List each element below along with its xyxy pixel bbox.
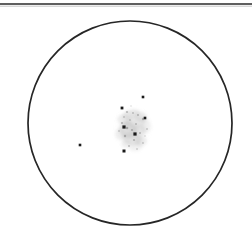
cluster-speckle-10 [124, 135, 126, 137]
data-point-p2 [121, 107, 124, 110]
cluster-blob-10 [115, 128, 125, 140]
cluster-speckle-13 [128, 145, 130, 147]
cluster-speckle-7 [126, 127, 129, 130]
cluster-speckle-19 [144, 135, 146, 137]
figure-panel [0, 0, 252, 243]
data-point-p1 [142, 96, 145, 99]
cluster-speckle-12 [142, 142, 144, 144]
cluster-speckle-4 [129, 119, 131, 121]
cluster-speckle-8 [131, 129, 133, 131]
data-point-p4 [122, 125, 125, 128]
cluster-speckle-15 [118, 130, 120, 132]
cluster-speckle-6 [135, 123, 137, 125]
cluster-speckle-2 [137, 114, 139, 116]
cluster-speckle-0 [126, 111, 128, 113]
cluster-speckle-5 [121, 122, 123, 124]
cluster-speckle-14 [136, 148, 138, 150]
cluster-speckle-18 [123, 116, 125, 118]
cluster-speckle-17 [130, 105, 132, 107]
data-point-p5 [133, 132, 136, 135]
scatter-plot-canvas [0, 0, 252, 243]
data-point-p7 [79, 144, 82, 147]
data-point-p6 [123, 150, 126, 153]
data-point-p3 [144, 117, 147, 120]
cluster-speckle-11 [133, 139, 135, 141]
cluster-blob-11 [141, 119, 151, 133]
cluster-speckle-1 [132, 112, 134, 114]
cluster-speckle-16 [146, 128, 148, 130]
cluster-speckle-9 [139, 132, 141, 134]
